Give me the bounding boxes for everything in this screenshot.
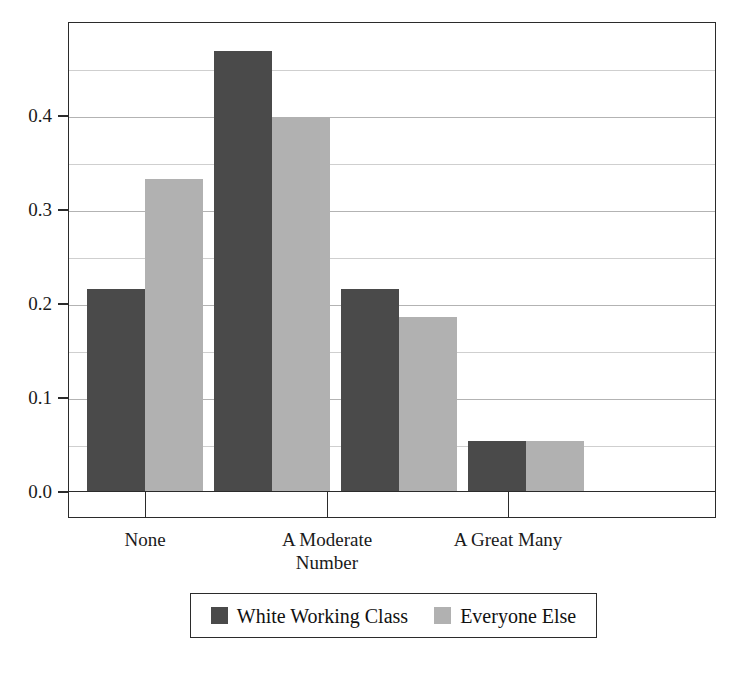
- y-axis-tick-mark: [58, 491, 68, 493]
- bar: [87, 289, 145, 491]
- bar: [272, 117, 330, 491]
- legend-label: Everyone Else: [460, 606, 576, 626]
- bar-chart: 0.00.10.20.30.4 NoneA Moderate NumberA G…: [0, 0, 741, 677]
- y-axis-tick-label: 0.1: [0, 388, 52, 407]
- bar: [214, 51, 272, 491]
- gridline-minor: [69, 70, 715, 71]
- legend-entry-white-working-class: White Working Class: [211, 606, 408, 626]
- legend-entry-everyone-else: Everyone Else: [434, 606, 576, 626]
- plot-inner: [69, 23, 715, 491]
- x-axis-tick-label: None: [45, 528, 245, 551]
- legend-swatch-icon-dark: [211, 607, 228, 624]
- bar: [145, 179, 203, 491]
- x-axis-tick-mark: [145, 492, 146, 518]
- y-axis-tick-mark: [58, 209, 68, 211]
- bar: [526, 441, 584, 491]
- gridline-major: [69, 117, 715, 118]
- y-axis-tick-mark: [58, 397, 68, 399]
- y-axis-tick-label: 0.2: [0, 294, 52, 313]
- bar: [399, 317, 457, 491]
- x-axis-tick-label: A Great Many: [408, 528, 608, 551]
- legend-swatch-icon-light: [434, 607, 451, 624]
- gridline-minor: [69, 164, 715, 165]
- legend: White Working Class Everyone Else: [190, 593, 597, 638]
- y-axis-tick-mark: [58, 303, 68, 305]
- x-axis-tick-mark: [327, 492, 328, 518]
- bar: [341, 289, 399, 491]
- legend-label: White Working Class: [237, 606, 408, 626]
- x-axis-tick-label: A Moderate Number: [227, 528, 427, 574]
- x-axis-band: [68, 492, 716, 518]
- y-axis-tick-label: 0.4: [0, 106, 52, 125]
- bar: [468, 441, 526, 491]
- x-axis-tick-mark: [508, 492, 509, 518]
- y-axis-tick-mark: [58, 115, 68, 117]
- y-axis-tick-label: 0.0: [0, 482, 52, 501]
- plot-area: [68, 22, 716, 492]
- y-axis-tick-label: 0.3: [0, 200, 52, 219]
